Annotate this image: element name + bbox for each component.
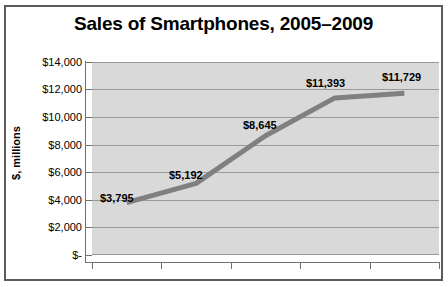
chart-frame: Sales of Smartphones, 2005–2009 $, milli… bbox=[4, 5, 443, 281]
data-point-label: $11,393 bbox=[306, 77, 345, 89]
data-point-label: $8,645 bbox=[243, 119, 277, 131]
data-point-label: $11,729 bbox=[382, 71, 421, 83]
data-series-line bbox=[6, 7, 448, 287]
data-point-label: $3,795 bbox=[100, 192, 134, 204]
data-point-label: $5,192 bbox=[169, 169, 203, 181]
